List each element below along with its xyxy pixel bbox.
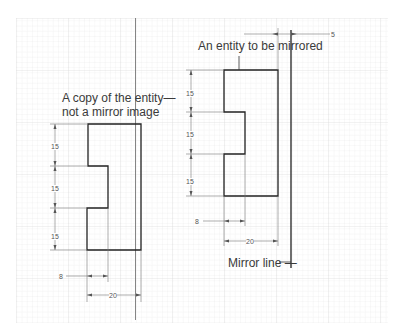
dim-right-width: 20: [246, 238, 254, 245]
dim-left-notch: 8: [59, 273, 63, 280]
mirror-line-label: Mirror line —: [228, 257, 297, 269]
dim-left-seg1: 15: [51, 143, 59, 150]
dim-right-seg1: 15: [186, 90, 194, 97]
dim-offset: 5: [331, 31, 335, 38]
dim-left-seg2: 15: [51, 185, 59, 192]
dim-left-seg3: 15: [51, 233, 59, 240]
copy-label-line1: A copy of the entity—: [62, 92, 175, 104]
drawing-canvas: A copy of the entity— not a mirror image…: [0, 0, 404, 336]
dim-right-seg3: 15: [186, 178, 194, 185]
dim-right-notch: 8: [195, 218, 199, 225]
dim-left-width: 20: [109, 292, 117, 299]
dim-right-seg2: 15: [186, 131, 194, 138]
entity-label: An entity to be mirrored: [198, 40, 323, 52]
copy-label-line2: not a mirror image: [62, 106, 159, 118]
